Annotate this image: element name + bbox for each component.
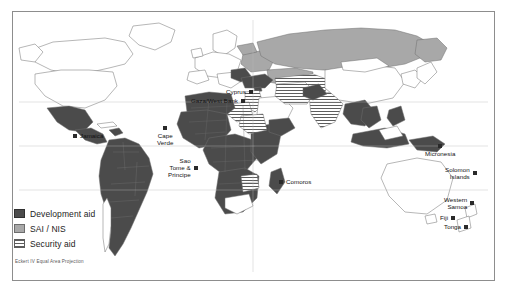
legend-item-sai-nis: SAI / NIS: [14, 222, 95, 235]
map-figure: Jamaica CapeVerde SaoTome &Principe Cypr…: [0, 0, 507, 292]
callout-marker-icon: [249, 90, 253, 94]
callout-label: SolomonIslands: [445, 166, 470, 180]
callout-label: Gaza/West Bank: [191, 97, 238, 104]
callout-label: Cyprus: [226, 88, 246, 95]
region-tasmania: [425, 214, 437, 224]
callout-label: Jamaica: [80, 132, 103, 139]
legend-item-development-aid: Development aid: [14, 207, 95, 220]
callout-label: CapeVerde: [157, 132, 173, 146]
callout-tonga: Tonga: [444, 223, 468, 230]
callout-marker-icon: [473, 171, 477, 175]
callout-label: Fiji: [440, 214, 448, 221]
callout-marker-icon: [241, 99, 245, 103]
map-legend: Development aid SAI / NIS Security aid: [14, 207, 95, 252]
callout-marker-icon: [279, 180, 283, 184]
legend-label: SAI / NIS: [30, 224, 66, 234]
callout-marker-icon: [451, 216, 455, 220]
callout-label: Micronesia: [425, 150, 455, 157]
callout-comoros: Comoros: [279, 178, 311, 185]
region-uk: [191, 48, 203, 58]
callout-micronesia: Micronesia: [425, 144, 455, 157]
legend-swatch-icon: [14, 239, 25, 248]
callout-fiji: Fiji: [440, 214, 455, 221]
callout-marker-icon: [464, 225, 468, 229]
callout-solomon-islands: SolomonIslands: [445, 166, 477, 180]
legend-item-security-aid: Security aid: [14, 237, 95, 250]
callout-cape-verde: CapeVerde: [157, 126, 173, 146]
callout-label: WesternSamoa: [444, 196, 467, 210]
callout-cyprus: Cyprus: [226, 88, 253, 95]
callout-jamaica: Jamaica: [73, 132, 103, 139]
callout-marker-icon: [438, 144, 442, 148]
callout-western-samoa: WesternSamoa: [444, 196, 474, 210]
projection-note: Eckert IV Equal Area Projection: [15, 259, 84, 264]
legend-swatch-icon: [14, 209, 25, 218]
callout-label: SaoTome &Principe: [168, 157, 191, 178]
callout-marker-icon: [73, 134, 77, 138]
callout-label: Comoros: [286, 178, 311, 185]
callout-marker-icon: [163, 126, 167, 130]
legend-label: Development aid: [30, 209, 95, 219]
callout-gaza-west-bank: Gaza/West Bank: [191, 97, 245, 104]
callout-label: Tonga: [444, 223, 461, 230]
callout-marker-icon: [194, 166, 198, 170]
legend-label: Security aid: [30, 239, 76, 249]
callout-marker-icon: [470, 201, 474, 205]
legend-swatch-icon: [14, 224, 25, 233]
callout-sao-tome-principe: SaoTome &Principe: [168, 157, 198, 178]
